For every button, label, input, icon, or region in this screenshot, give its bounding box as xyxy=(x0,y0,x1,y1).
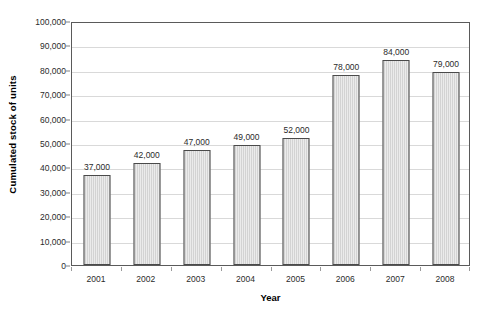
y-axis-tick-mark xyxy=(66,46,70,47)
bar-value-label: 37,000 xyxy=(84,162,110,172)
bars-layer: 37,00042,00047,00049,00052,00078,00084,0… xyxy=(72,23,469,265)
y-axis-tick-mark xyxy=(66,22,70,23)
bar[interactable] xyxy=(233,145,260,265)
bar[interactable] xyxy=(133,163,160,265)
bar-group: 42,000 xyxy=(122,23,172,265)
y-axis-tick-label: 90,000 xyxy=(40,41,66,51)
bar-group: 47,000 xyxy=(172,23,222,265)
x-axis-tick-mark xyxy=(370,267,371,271)
bar[interactable] xyxy=(83,175,110,265)
y-axis-tick-label: 30,000 xyxy=(40,188,66,198)
x-axis-tick-label: 2002 xyxy=(136,274,155,284)
x-axis-tick-mark xyxy=(221,267,222,271)
x-axis-tick-label: 2006 xyxy=(336,274,355,284)
bar[interactable] xyxy=(383,60,410,265)
y-axis-tick-mark xyxy=(66,266,70,267)
y-axis-tick-label: 70,000 xyxy=(40,90,66,100)
x-axis-tick-mark xyxy=(420,267,421,271)
bar-chart: Cumulated stock of units 010,00020,00030… xyxy=(0,0,490,317)
bar[interactable] xyxy=(183,150,210,265)
x-axis-tick-label: 2004 xyxy=(236,274,255,284)
x-axis-tick-mark xyxy=(271,267,272,271)
x-axis-tick-label: 2001 xyxy=(86,274,105,284)
x-axis-tick-label: 2003 xyxy=(186,274,205,284)
y-axis-tick-mark xyxy=(66,144,70,145)
bar[interactable] xyxy=(433,72,460,265)
bar-group: 49,000 xyxy=(222,23,272,265)
x-axis-tick-mark xyxy=(171,267,172,271)
x-axis-tick-mark xyxy=(469,267,470,271)
bar-value-label: 42,000 xyxy=(134,150,160,160)
x-axis-tick-labels: 20012002200320042005200620072008 xyxy=(71,267,470,287)
x-axis-tick-label: 2007 xyxy=(386,274,405,284)
bar-group: 52,000 xyxy=(272,23,322,265)
bar-group: 37,000 xyxy=(72,23,122,265)
bar-value-label: 84,000 xyxy=(383,47,409,57)
y-axis-tick-mark xyxy=(66,217,70,218)
x-axis-tick-mark xyxy=(71,267,72,271)
y-axis-tick-label: 50,000 xyxy=(40,139,66,149)
y-axis-tick-label: 10,000 xyxy=(40,237,66,247)
bar-group: 84,000 xyxy=(371,23,421,265)
y-axis-tick-label: 20,000 xyxy=(40,212,66,222)
y-axis-tick-mark xyxy=(66,70,70,71)
y-axis-tick-label: 80,000 xyxy=(40,66,66,76)
bar-group: 78,000 xyxy=(321,23,371,265)
x-axis-tick-mark xyxy=(320,267,321,271)
x-axis-title: Year xyxy=(71,292,470,303)
bar[interactable] xyxy=(333,75,360,265)
y-axis-title-text: Cumulated stock of units xyxy=(7,75,18,193)
y-axis-tick-label: 40,000 xyxy=(40,163,66,173)
x-axis-tick-mark xyxy=(121,267,122,271)
y-axis-tick-label: 60,000 xyxy=(40,115,66,125)
y-axis-tick-mark xyxy=(66,168,70,169)
plot-area: 37,00042,00047,00049,00052,00078,00084,0… xyxy=(71,22,470,266)
bar-value-label: 52,000 xyxy=(283,125,309,135)
x-axis-tick-label: 2005 xyxy=(286,274,305,284)
bar[interactable] xyxy=(283,138,310,265)
y-axis-tick-mark xyxy=(66,241,70,242)
y-axis-tick-label: 100,000 xyxy=(35,17,66,27)
x-axis-tick-label: 2008 xyxy=(436,274,455,284)
y-axis-tick-mark xyxy=(66,192,70,193)
bar-value-label: 49,000 xyxy=(234,132,260,142)
bar-value-label: 79,000 xyxy=(433,59,459,69)
bar-group: 79,000 xyxy=(421,23,471,265)
y-axis-tick-labels: 010,00020,00030,00040,00050,00060,00070,… xyxy=(18,22,66,266)
bar-value-label: 47,000 xyxy=(184,137,210,147)
y-axis-tick-mark xyxy=(66,95,70,96)
bar-value-label: 78,000 xyxy=(333,62,359,72)
y-axis-tick-mark xyxy=(66,119,70,120)
